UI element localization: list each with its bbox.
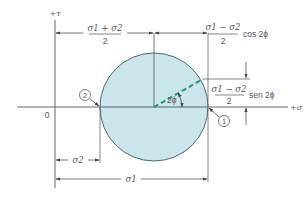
sen-suffix: sen 2ϕ — [249, 90, 275, 100]
tau-axis-label: +τ — [49, 9, 61, 18]
origin-label: 0 — [45, 110, 50, 120]
sigma1-label: σ1 — [125, 174, 136, 184]
sen-denominator: 2 — [227, 96, 232, 106]
sigma2-label: σ2 — [72, 155, 83, 165]
sen-numerator: σ1 − σ2 — [212, 84, 247, 94]
point1-label: 1 — [222, 117, 226, 126]
sigma-axis-label: +σ — [290, 103, 303, 112]
point2-leader — [90, 99, 99, 106]
cos-suffix: cos 2ϕ — [243, 29, 268, 39]
center-denominator: 2 — [103, 36, 108, 46]
center-numerator: σ1 + σ2 — [88, 23, 123, 33]
point1-leader — [209, 108, 219, 117]
point2-label: 2 — [83, 91, 87, 100]
cos-denominator: 2 — [221, 36, 226, 46]
cos-numerator: σ1 − σ2 — [206, 22, 241, 32]
angle-label: 2ϕ — [167, 95, 177, 105]
mohr-circle-diagram: σ1 + σ2 2 σ1 − σ2 2 cos 2ϕ σ1 − σ2 2 sen… — [0, 0, 306, 197]
